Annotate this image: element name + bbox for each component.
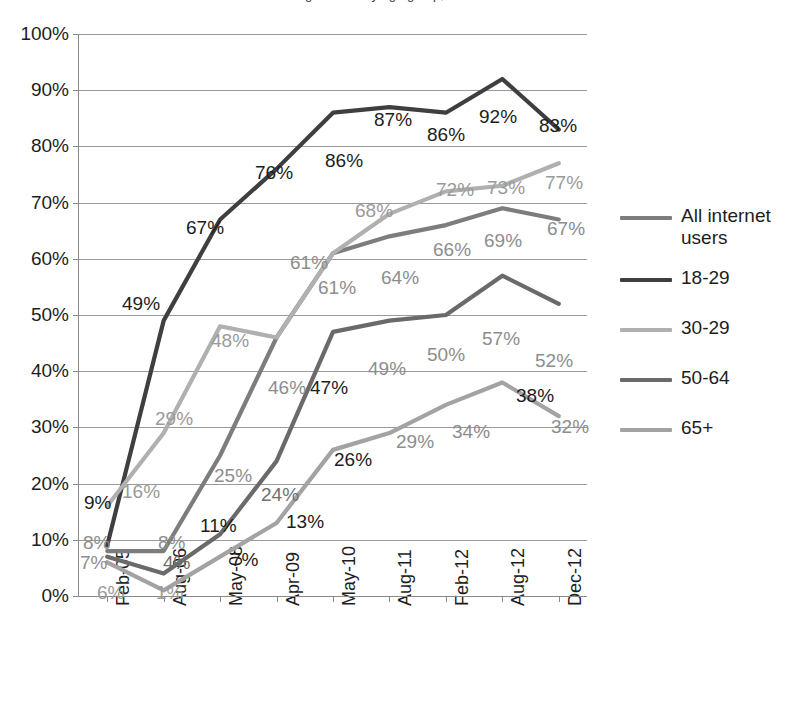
y-axis-tick: [73, 540, 79, 541]
data-label: 67%: [186, 218, 224, 237]
legend-item[interactable]: 18-29: [620, 267, 797, 289]
y-axis-label: 90%: [5, 80, 69, 99]
x-axis-tick: [277, 596, 278, 602]
data-label: 26%: [334, 450, 372, 469]
y-axis-tick: [73, 90, 79, 91]
data-label: 77%: [545, 173, 583, 192]
x-axis-tick: [220, 596, 221, 602]
y-axis-tick: [73, 371, 79, 372]
gridline: [79, 90, 587, 91]
y-axis-label: 0%: [5, 586, 69, 605]
data-label: 32%: [551, 417, 589, 436]
y-axis-tick: [73, 34, 79, 35]
data-label: 87%: [374, 110, 412, 129]
data-label: 8%: [158, 533, 185, 552]
legend-item-label: 18-29: [681, 267, 797, 289]
data-label: 69%: [484, 231, 522, 250]
y-axis-label: 60%: [5, 249, 69, 268]
legend-color-swatch: [620, 216, 672, 220]
data-label: 48%: [211, 331, 249, 350]
x-axis-tick: [333, 596, 334, 602]
y-axis-tick: [73, 259, 79, 260]
data-label: 72%: [436, 180, 474, 199]
data-label: 83%: [539, 116, 577, 135]
y-axis-tick: [73, 596, 79, 597]
legend-item-label: 65+: [681, 417, 797, 439]
gridline: [79, 259, 587, 260]
data-label: 61%: [290, 253, 328, 272]
data-label: 61%: [318, 278, 356, 297]
data-label: 6%: [97, 583, 124, 602]
data-label: 11%: [200, 516, 237, 535]
legend-color-swatch: [620, 278, 672, 282]
data-label: 4%: [163, 553, 190, 572]
data-label: 92%: [479, 107, 517, 126]
chart-title: Social networking site use by age group,…: [150, 0, 570, 2]
y-axis-tick: [73, 315, 79, 316]
data-label: 76%: [255, 163, 293, 182]
gridline: [79, 540, 587, 541]
y-axis-tick: [73, 427, 79, 428]
data-label: 49%: [368, 359, 406, 378]
data-label: 25%: [214, 466, 252, 485]
y-axis-label: 30%: [5, 417, 69, 436]
data-label: 86%: [325, 151, 363, 170]
data-label: 13%: [286, 512, 324, 531]
x-axis-tick: [446, 596, 447, 602]
data-label: 7%: [231, 550, 258, 569]
gridline: [79, 146, 587, 147]
data-label: 73%: [487, 178, 525, 197]
series-line: [107, 79, 559, 545]
data-label: 29%: [396, 432, 434, 451]
data-label: 29%: [155, 409, 193, 428]
data-label: 9%: [84, 493, 111, 512]
gridline: [79, 371, 587, 372]
y-axis-tick: [73, 484, 79, 485]
legend-item-label: 50-64: [681, 367, 797, 389]
legend-color-swatch: [620, 428, 672, 432]
y-axis-label: 100%: [5, 24, 69, 43]
y-axis-label: 70%: [5, 193, 69, 212]
legend-item[interactable]: 30-29: [620, 317, 797, 339]
legend-item[interactable]: 65+: [620, 417, 797, 439]
x-axis-tick: [389, 596, 390, 602]
chart-page: Social networking site use by age group,…: [0, 0, 803, 708]
legend-item[interactable]: All internet users: [620, 205, 797, 250]
legend-item[interactable]: 50-64: [620, 367, 797, 389]
gridline: [79, 203, 587, 204]
legend-color-swatch: [620, 378, 672, 382]
data-label: 66%: [433, 240, 471, 259]
y-axis-label: 50%: [5, 305, 69, 324]
data-label: 57%: [482, 329, 520, 348]
x-axis-tick: [502, 596, 503, 602]
data-label: 52%: [535, 351, 573, 370]
data-label: 86%: [427, 125, 465, 144]
legend-item-label: All internet users: [681, 205, 797, 250]
legend-color-swatch: [620, 328, 672, 332]
data-label: 34%: [452, 422, 490, 441]
y-axis-label: 40%: [5, 361, 69, 380]
data-label: 7%: [80, 553, 107, 572]
data-label: 67%: [547, 219, 585, 238]
y-axis-tick: [73, 146, 79, 147]
y-axis-label: 20%: [5, 474, 69, 493]
data-label: 68%: [355, 201, 393, 220]
data-label: 16%: [122, 482, 160, 501]
data-label: 64%: [381, 268, 419, 287]
gridline: [79, 315, 587, 316]
data-label: 46%: [268, 378, 306, 397]
y-axis-tick: [73, 203, 79, 204]
gridline: [79, 34, 587, 35]
data-label: 50%: [427, 345, 465, 364]
data-label: 1%: [156, 583, 183, 602]
data-label: 8%: [83, 533, 110, 552]
data-label: 47%: [310, 378, 348, 397]
data-label: 38%: [516, 386, 554, 405]
data-label: 24%: [261, 485, 299, 504]
x-axis-tick: [559, 596, 560, 602]
y-axis-label: 80%: [5, 136, 69, 155]
y-axis-label: 10%: [5, 530, 69, 549]
data-label: 49%: [122, 294, 160, 313]
legend-item-label: 30-29: [681, 317, 797, 339]
